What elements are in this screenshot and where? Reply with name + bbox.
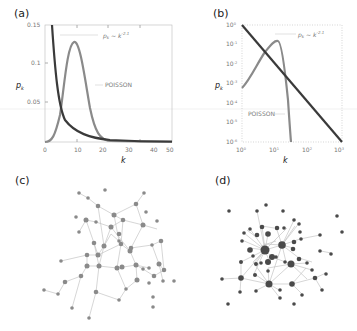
svg-text:10-5: 10-5 (226, 118, 237, 125)
panel-b-label: (b) (213, 7, 229, 20)
panel-d-label: (d) (215, 174, 231, 187)
panel-d-edges (222, 211, 331, 298)
svg-text:0.1: 0.1 (31, 59, 41, 66)
svg-text:0.05: 0.05 (27, 98, 41, 105)
svg-text:100: 100 (226, 21, 236, 28)
panel-b-xticks: 100 101 102 103 (236, 146, 344, 153)
svg-text:10-2: 10-2 (226, 60, 237, 67)
panel-c-nodes (42, 188, 176, 320)
svg-text:10-1: 10-1 (226, 40, 237, 47)
panel-a-poisson-curve (45, 42, 172, 142)
panel-b-ylabel: pk (214, 81, 224, 91)
svg-text:100: 100 (236, 146, 246, 153)
panel-c: (c) (15, 174, 176, 320)
panel-b-xlabel: k (283, 156, 288, 165)
svg-text:40: 40 (150, 146, 158, 153)
panel-b-poisson-annotation: POISSON (248, 110, 275, 117)
svg-text:102: 102 (302, 146, 312, 153)
figure: (a) 0.15 0.1 0.05 0 10 20 30 40 50 k pk (0, 0, 357, 331)
panel-a-poisson-annotation: POISSON (105, 81, 132, 88)
svg-text:10-4: 10-4 (226, 99, 238, 106)
svg-text:30: 30 (125, 146, 133, 153)
panel-b: (b) 100 10-1 10-2 10-3 10-4 10-5 10-6 10… (213, 7, 344, 165)
panel-b-powerlaw-annotation: pk ~ k-2.1 (297, 30, 324, 39)
svg-text:101: 101 (269, 146, 279, 153)
svg-text:10-3: 10-3 (226, 79, 237, 86)
panel-a-ylabel: pk (15, 81, 25, 91)
svg-text:0: 0 (43, 146, 47, 153)
panel-b-yticks: 100 10-1 10-2 10-3 10-4 10-5 10-6 (226, 21, 238, 145)
panel-a: (a) 0.15 0.1 0.05 0 10 20 30 40 50 k pk (14, 7, 174, 165)
svg-text:103: 103 (334, 146, 344, 153)
svg-text:0.15: 0.15 (27, 21, 41, 28)
panel-a-xlabel: k (121, 156, 126, 165)
svg-text:10: 10 (74, 146, 82, 153)
panel-a-powerlaw-annotation: pk ~ k-2.1 (102, 31, 129, 40)
panel-b-powerlaw-line (242, 25, 342, 142)
svg-text:50: 50 (166, 146, 174, 153)
panel-a-label: (a) (14, 7, 29, 20)
svg-text:20: 20 (99, 146, 107, 153)
panel-d-nodes (220, 203, 344, 306)
panel-c-label: (c) (15, 174, 30, 187)
panel-b-poisson-curve (242, 41, 291, 142)
panel-d: (d) (215, 174, 344, 306)
svg-text:10-6: 10-6 (226, 138, 237, 145)
